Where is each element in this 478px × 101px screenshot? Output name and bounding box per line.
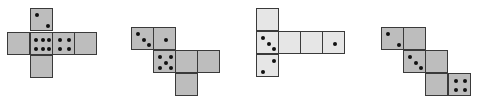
die-face-blank (403, 27, 426, 50)
die-face-4 (448, 73, 471, 96)
pip-dot-icon (419, 66, 423, 70)
die-face-blank (425, 73, 448, 96)
pip-dot-icon (463, 88, 467, 92)
cube-net-4 (0, 0, 478, 101)
die-face-blank (425, 50, 448, 73)
pip-dot-icon (414, 61, 418, 65)
pip-dot-icon (397, 43, 401, 47)
pip-dot-icon (454, 88, 458, 92)
die-face-3 (403, 50, 426, 73)
pip-dot-icon (454, 79, 458, 83)
pip-dot-icon (386, 32, 390, 36)
pip-dot-icon (463, 79, 467, 83)
pip-dot-icon (408, 55, 412, 59)
die-face-2 (381, 27, 404, 50)
